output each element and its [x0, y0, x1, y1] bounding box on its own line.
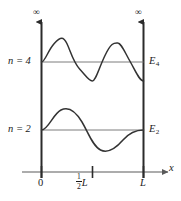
infinity-label-left: ∞ — [33, 8, 40, 18]
energy-label-e2-symbol: E — [149, 123, 155, 134]
x-tick-label-L: L — [140, 178, 146, 189]
energy-label-e4-symbol: E — [149, 55, 155, 66]
energy-label-e2: E2 — [149, 124, 159, 136]
x-tick-label-half-L: 12L — [76, 173, 88, 190]
quantum-number-label-n4: n = 4 — [8, 56, 31, 67]
energy-label-e4: E4 — [149, 56, 159, 68]
infinity-label-right: ∞ — [135, 8, 142, 18]
fraction-length-symbol: L — [82, 177, 88, 188]
wavefunction-curve-n4 — [42, 38, 144, 81]
x-tick-label-0: 0 — [38, 178, 43, 189]
infinite-square-well-figure: ∞ ∞ n = 4 n = 2 E4 E2 0 12L L x — [0, 0, 181, 201]
x-axis-label: x — [169, 163, 174, 174]
wavefunction-plot — [0, 0, 181, 201]
energy-label-e2-subscript: 2 — [156, 128, 160, 136]
quantum-number-label-n2: n = 2 — [8, 124, 31, 135]
energy-label-e4-subscript: 4 — [156, 60, 160, 68]
